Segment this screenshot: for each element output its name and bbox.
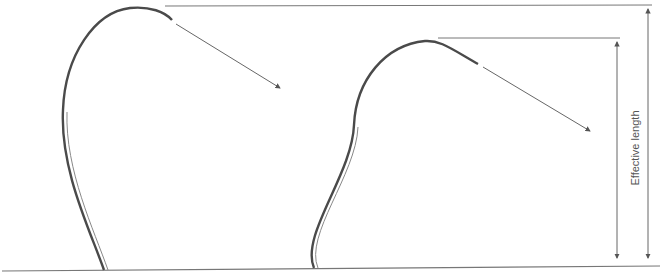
top-reference-line [165, 5, 652, 6]
right-bent-shape [312, 41, 478, 268]
left-direction-arrow [176, 24, 280, 88]
diagram-svg [0, 0, 660, 276]
ground-line [2, 266, 660, 271]
left-bent-shape [63, 8, 172, 270]
diagram-canvas: Effective length [0, 0, 660, 276]
effective-length-label: Effective length [629, 110, 641, 185]
right-direction-arrow [483, 67, 590, 131]
